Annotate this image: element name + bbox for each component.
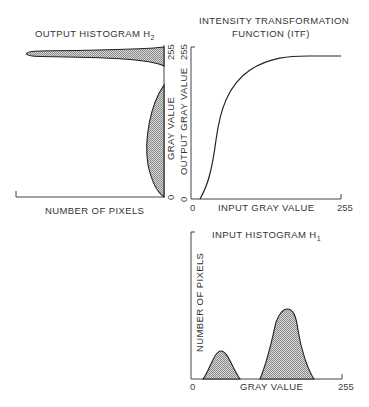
- itf-title-line1: INTENSITY TRANSFORMATION: [199, 15, 349, 26]
- output-histogram-ytick-max: 255: [165, 44, 176, 60]
- output-histogram-y-label: GRAY VALUE: [165, 97, 176, 160]
- input-histogram-panel: INPUT HISTOGRAM H1 NUMBER OF PIXELS 0 GR…: [190, 229, 354, 392]
- input-histogram-title: INPUT HISTOGRAM H1: [212, 229, 321, 242]
- input-histogram-peak-low: [203, 351, 240, 379]
- output-histogram-axes: [16, 45, 164, 197]
- itf-xtick-max: 255: [337, 202, 353, 213]
- itf-panel: INTENSITY TRANSFORMATION FUNCTION (ITF) …: [178, 15, 353, 213]
- itf-y-label: OUTPUT GRAY VALUE: [178, 68, 189, 175]
- input-histogram-xtick-max: 255: [338, 381, 354, 392]
- output-histogram-spike: [27, 47, 165, 66]
- itf-curve: [200, 56, 341, 199]
- itf-ytick-max: 255: [178, 44, 189, 60]
- output-histogram-x-label: NUMBER OF PIXELS: [45, 205, 144, 216]
- itf-x-label: INPUT GRAY VALUE: [218, 202, 315, 213]
- output-histogram-panel: OUTPUT HISTOGRAM H2 255 0 GRAY VALUE NUM…: [16, 28, 176, 216]
- output-histogram-spread: [147, 85, 164, 197]
- itf-ytick-min: 0: [178, 197, 189, 202]
- input-histogram-peak-high: [260, 309, 314, 379]
- output-histogram-ytick-min: 0: [165, 195, 176, 200]
- output-histogram-title: OUTPUT HISTOGRAM H2: [35, 28, 155, 41]
- input-histogram-xtick-min: 0: [190, 381, 195, 392]
- itf-title-line2: FUNCTION (ITF): [232, 28, 310, 39]
- histogram-equalization-diagram: OUTPUT HISTOGRAM H2 255 0 GRAY VALUE NUM…: [0, 0, 369, 407]
- input-histogram-axes: [191, 232, 342, 379]
- input-histogram-y-label: NUMBER OF PIXELS: [194, 253, 205, 352]
- itf-axes: [191, 47, 341, 199]
- input-histogram-x-label: GRAY VALUE: [240, 381, 303, 392]
- itf-xtick-min: 0: [190, 202, 195, 213]
